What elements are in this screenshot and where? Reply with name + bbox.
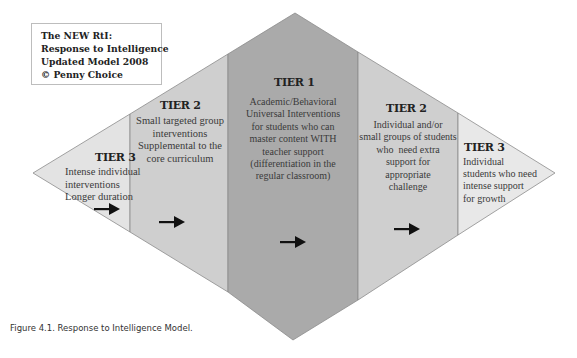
text-line: Longer duration xyxy=(65,191,141,204)
text-line: for students who can xyxy=(228,121,358,133)
title-line: Response to Intelligence xyxy=(41,42,161,55)
tier1-heading: TIER 1 xyxy=(274,76,315,89)
text-line: Intense individual xyxy=(65,166,141,179)
text-line: for growth xyxy=(463,193,537,205)
tier2-left-text: Small targeted group interventions Suppl… xyxy=(132,115,228,165)
text-line: core curriculum xyxy=(132,153,228,166)
text-line: who need extra xyxy=(358,144,458,156)
text-line: teacher support xyxy=(228,146,358,158)
text-line: support for xyxy=(358,156,458,168)
tier3-right-heading: TIER 3 xyxy=(464,141,505,154)
text-line: challenge xyxy=(358,181,458,193)
title-line: Updated Model 2008 xyxy=(41,55,161,68)
text-line: regular classroom) xyxy=(228,170,358,182)
right-arrow-icon xyxy=(394,223,420,235)
right-arrow-icon xyxy=(94,203,120,215)
tier3-right-text: Individual students who need intense sup… xyxy=(463,156,537,205)
tier2-right-heading: TIER 2 xyxy=(386,102,427,115)
title-line: The NEW RtI: xyxy=(41,29,161,42)
text-line: students who need xyxy=(463,168,537,180)
tier3-left-heading: TIER 3 xyxy=(95,151,136,164)
text-line: interventions xyxy=(132,128,228,141)
text-line: small groups of students xyxy=(358,131,458,143)
text-line: Supplemental to the xyxy=(132,140,228,153)
right-arrow-icon xyxy=(159,216,185,228)
copyright-line: © Penny Choice xyxy=(41,68,161,81)
title-box: The NEW RtI: Response to Intelligence Up… xyxy=(31,23,162,85)
text-line: Individual xyxy=(463,156,537,168)
tier2-left-heading: TIER 2 xyxy=(160,99,201,112)
text-line: appropriate xyxy=(358,169,458,181)
text-line: Universal Interventions xyxy=(228,108,358,120)
text-line: interventions xyxy=(65,179,141,192)
right-arrow-icon xyxy=(280,236,306,248)
tier3-left-text: Intense individual interventions Longer … xyxy=(65,166,141,204)
tier2-right-text: Individual and/or small groups of studen… xyxy=(358,119,458,193)
text-line: Academic/Behavioral xyxy=(228,96,358,108)
text-line: (differentiation in the xyxy=(228,158,358,170)
text-line: Individual and/or xyxy=(358,119,458,131)
figure-caption: Figure 4.1. Response to Intelligence Mod… xyxy=(10,323,193,333)
tier2-left-region xyxy=(130,54,228,292)
text-line: intense support xyxy=(463,180,537,192)
text-line: Small targeted group xyxy=(132,115,228,128)
text-line: master content WITH xyxy=(228,133,358,145)
tier1-text: Academic/Behavioral Universal Interventi… xyxy=(228,96,358,183)
